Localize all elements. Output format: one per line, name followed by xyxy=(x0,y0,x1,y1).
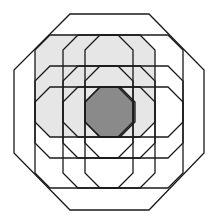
octagon-diagram xyxy=(0,0,216,223)
diagram-canvas xyxy=(0,0,216,223)
